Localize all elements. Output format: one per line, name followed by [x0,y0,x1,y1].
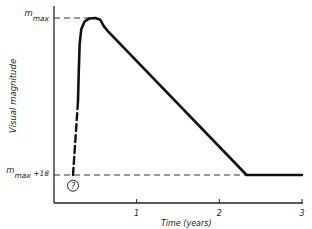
y-axis-label: Visual magnitude [8,59,18,133]
x-axis-label: Time (years) [161,219,212,228]
x-tick-label: 3 [299,209,304,218]
light-curve-uncertain-rise [73,102,78,175]
y-reference-label: mmax [24,8,49,23]
light-curve-solid [78,18,302,175]
y-reference-label: mmax +18 [6,165,49,180]
x-tick-label: 2 [217,209,222,218]
series [73,18,302,175]
guide-lines [54,18,247,175]
labels: 123Time (years)Visual magnitudemmaxmmax … [6,8,304,228]
light-curve-chart: ? 123Time (years)Visual magnitudemmaxmma… [0,0,312,229]
annotations: ? [68,180,79,191]
unknown-marker-text: ? [71,182,76,191]
x-tick-label: 1 [134,209,139,218]
